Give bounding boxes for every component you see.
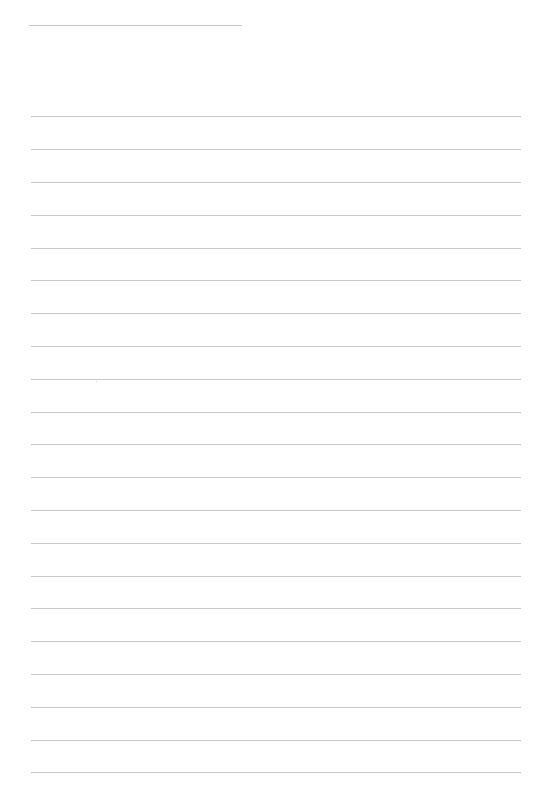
ruled-line	[31, 313, 521, 314]
ruled-line	[31, 740, 521, 741]
ruled-line	[31, 215, 521, 216]
ruled-line	[31, 674, 521, 675]
ruled-lines-container	[0, 0, 533, 797]
ruled-line	[31, 116, 521, 117]
ruled-line	[31, 576, 521, 577]
ruled-line	[31, 641, 521, 642]
ruled-line	[31, 412, 521, 413]
ruled-line	[31, 477, 521, 478]
ruled-line	[31, 248, 521, 249]
ruled-line	[31, 510, 521, 511]
ruled-line	[31, 182, 521, 183]
ruled-line	[31, 280, 521, 281]
ruled-line	[31, 543, 521, 544]
ruled-line	[31, 707, 521, 708]
ruled-line	[31, 379, 521, 380]
lined-paper-page	[0, 0, 533, 797]
ruled-line	[31, 444, 521, 445]
ruled-line	[31, 608, 521, 609]
ruled-line	[31, 772, 521, 773]
paper-speck	[96, 381, 97, 382]
ruled-line	[31, 346, 521, 347]
ruled-line	[31, 149, 521, 150]
